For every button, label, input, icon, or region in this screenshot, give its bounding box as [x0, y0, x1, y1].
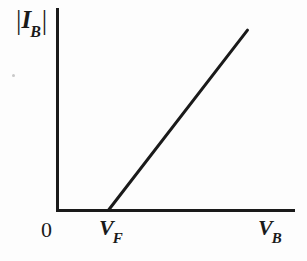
vb-subscript: B — [272, 230, 282, 246]
data-line-breakdown-slope — [109, 30, 248, 210]
scan-artifact-speck — [12, 74, 15, 77]
x-axis-tick-origin: 0 — [41, 219, 52, 241]
vf-symbol: V — [99, 215, 114, 240]
vb-symbol: V — [258, 215, 273, 240]
x-axis-tick-forward-voltage: VF — [99, 217, 124, 243]
x-axis-tick-breakdown-voltage: VB — [258, 217, 283, 243]
vf-subscript: F — [113, 230, 123, 246]
diode-breakdown-characteristic-figure: |IB| 0 VF VB — [0, 0, 307, 261]
